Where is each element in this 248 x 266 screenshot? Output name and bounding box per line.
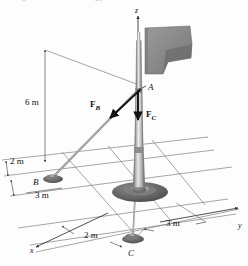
- force-label-FC-subscript: C: [152, 114, 157, 122]
- anchor-C: [122, 233, 144, 243]
- point-A-leader: [142, 86, 146, 88]
- dimension-2m-upper: [6, 161, 8, 176]
- flag: [145, 26, 192, 74]
- point-label-A: A: [148, 83, 154, 92]
- force-label-FB-subscript: B: [96, 104, 101, 112]
- flagpole-diagram-svg: [0, 0, 248, 266]
- dimension-label-3m-upper: 3 m: [35, 191, 49, 200]
- axis-label-y: y: [238, 222, 242, 230]
- dimension-label-2m-lower: 2 m: [84, 231, 98, 240]
- point-label-B: B: [33, 178, 39, 187]
- force-label-FB: FB: [90, 100, 100, 112]
- axis-label-x: x: [30, 247, 34, 255]
- figure-canvas: e2): [0, 0, 248, 266]
- dimension-label-3m-lower: 3 m: [166, 219, 180, 228]
- anchor-B: [43, 175, 63, 183]
- axis-label-z: z: [135, 7, 138, 15]
- dimension-label-2m-upper: 2 m: [10, 157, 24, 166]
- dimension-label-6m: 6 m: [25, 98, 39, 107]
- flagpole-mast: [133, 32, 145, 190]
- force-label-FC: FC: [146, 110, 156, 122]
- point-label-C: C: [128, 249, 134, 258]
- pole-ground-collar: [132, 187, 147, 193]
